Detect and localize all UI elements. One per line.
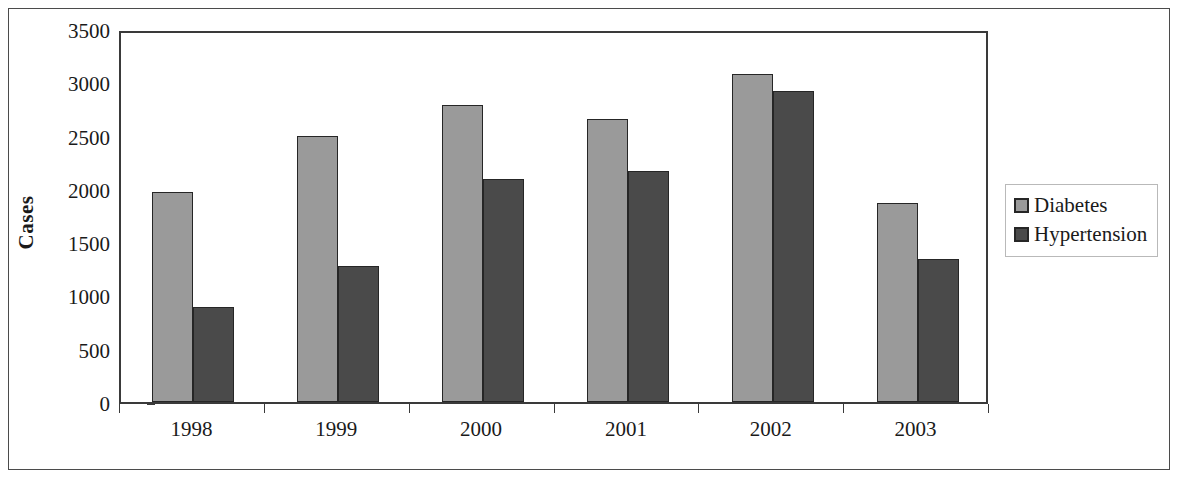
bar-group [732, 33, 814, 402]
bar-group [442, 33, 524, 402]
x-axis-tick-label: 2001 [605, 419, 647, 440]
x-axis-tick-label: 2000 [460, 419, 502, 440]
y-axis-tick-label: 0 [36, 394, 110, 415]
bar-2000-hypertension[interactable] [483, 179, 524, 402]
x-axis-tick-mark [554, 404, 555, 413]
legend-item-diabetes[interactable]: Diabetes [1014, 191, 1147, 220]
x-axis-tick-mark [119, 404, 120, 413]
bar-group [297, 33, 379, 402]
x-axis-tick-mark [843, 404, 844, 413]
x-axis-tick-label: 1999 [315, 419, 357, 440]
bar-2002-hypertension[interactable] [773, 91, 814, 402]
y-axis-tick-label: 2500 [36, 127, 110, 148]
legend-label: Diabetes [1034, 195, 1107, 216]
legend-label: Hypertension [1034, 224, 1147, 245]
bar-group [587, 33, 669, 402]
x-axis-tick-label: 2003 [895, 419, 937, 440]
legend-item-hypertension[interactable]: Hypertension [1014, 220, 1147, 249]
bar-group [877, 33, 959, 402]
bar-2000-diabetes[interactable] [442, 105, 483, 402]
bar-1999-hypertension[interactable] [338, 266, 379, 402]
y-axis-tick-label: 500 [36, 340, 110, 361]
y-axis-tick-label: 3000 [36, 74, 110, 95]
y-axis-tick-label: 3500 [36, 21, 110, 42]
chart-figure: Cases 0500100015002000250030003500 19981… [0, 0, 1180, 486]
bar-2001-hypertension[interactable] [628, 171, 669, 402]
bar-2002-diabetes[interactable] [732, 74, 773, 402]
bar-2001-diabetes[interactable] [587, 119, 628, 402]
bar-1998-hypertension[interactable] [193, 307, 234, 402]
x-axis-tick-mark [409, 404, 410, 413]
bar-2003-diabetes[interactable] [877, 203, 918, 402]
bar-1998-diabetes[interactable] [152, 192, 193, 402]
y-axis-tick-mark [147, 404, 155, 405]
bar-1999-diabetes[interactable] [297, 136, 338, 402]
plot-area [121, 33, 986, 402]
x-axis-tick-mark [988, 404, 989, 413]
x-axis-tick-label: 1998 [170, 419, 212, 440]
bar-group [152, 33, 234, 402]
chart-legend: DiabetesHypertension [1005, 184, 1158, 257]
y-axis-tick-labels: 0500100015002000250030003500 [36, 31, 110, 404]
x-axis-tick-mark [264, 404, 265, 413]
legend-swatch-icon [1014, 227, 1029, 242]
x-axis-tick-label: 2002 [750, 419, 792, 440]
x-axis-tick-mark [698, 404, 699, 413]
y-axis-tick-label: 1500 [36, 234, 110, 255]
plot-frame [119, 31, 988, 404]
legend-swatch-icon [1014, 198, 1029, 213]
y-axis-tick-label: 1000 [36, 287, 110, 308]
y-axis-tick-label: 2000 [36, 180, 110, 201]
bar-2003-hypertension[interactable] [918, 259, 959, 402]
